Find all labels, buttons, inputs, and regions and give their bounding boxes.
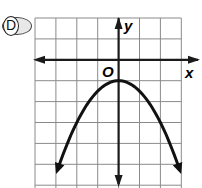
grid-lines [35, 18, 181, 188]
origin-label: O [102, 63, 114, 80]
x-axis-label: x [184, 64, 194, 81]
parabola-graph: y x O [0, 0, 202, 188]
y-axis-label: y [123, 17, 133, 34]
